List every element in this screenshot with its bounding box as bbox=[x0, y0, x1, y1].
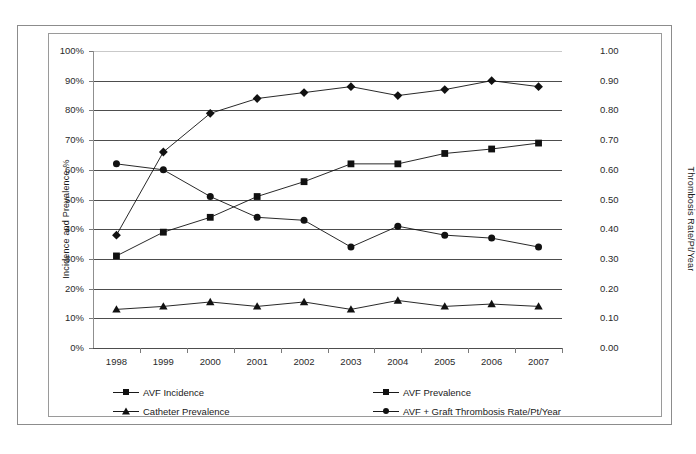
chart-legend: AVF Incidence AVF Prevalence Catheter Pr… bbox=[68, 383, 588, 419]
legend-item-catheter-prevalence: Catheter Prevalence bbox=[113, 402, 230, 420]
series-diamond bbox=[112, 76, 543, 239]
legend-item-avf-incidence: AVF Incidence bbox=[113, 383, 204, 401]
series-circle bbox=[113, 160, 542, 250]
series-triangle bbox=[112, 296, 543, 312]
legend-item-avf-prevalence: AVF Prevalence bbox=[373, 383, 471, 401]
triangle-marker-icon bbox=[113, 405, 139, 417]
circle-marker-icon bbox=[373, 405, 399, 417]
legend-label: AVF Prevalence bbox=[403, 387, 471, 398]
legend-label: Catheter Prevalence bbox=[143, 406, 230, 417]
legend-item-thrombosis-rate: AVF + Graft Thrombosis Rate/Pt/Year bbox=[373, 402, 561, 420]
series-square bbox=[113, 140, 542, 260]
square-marker-icon bbox=[373, 386, 399, 398]
legend-label: AVF + Graft Thrombosis Rate/Pt/Year bbox=[403, 406, 561, 417]
legend-label: AVF Incidence bbox=[143, 387, 204, 398]
diamond-marker-icon bbox=[113, 386, 139, 398]
